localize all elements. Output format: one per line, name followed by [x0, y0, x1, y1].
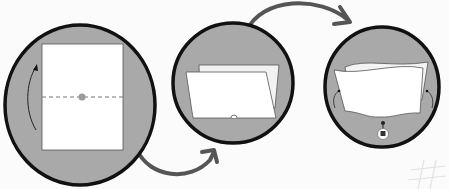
folding-diagram [0, 0, 449, 189]
arrow-step2-to-step3 [246, 3, 350, 32]
step-3-notch-marker [381, 121, 385, 125]
hash-decoration [408, 160, 446, 189]
step-3-panel [325, 27, 439, 147]
step-2-panel [173, 23, 293, 143]
step-3-front-flap [334, 66, 423, 117]
step-1-panel [5, 25, 155, 185]
step-2-front-flap [186, 72, 276, 118]
arrow-step1-to-step2 [137, 150, 217, 174]
step-2-notch [231, 115, 237, 118]
step-1-center-dot [79, 94, 86, 101]
